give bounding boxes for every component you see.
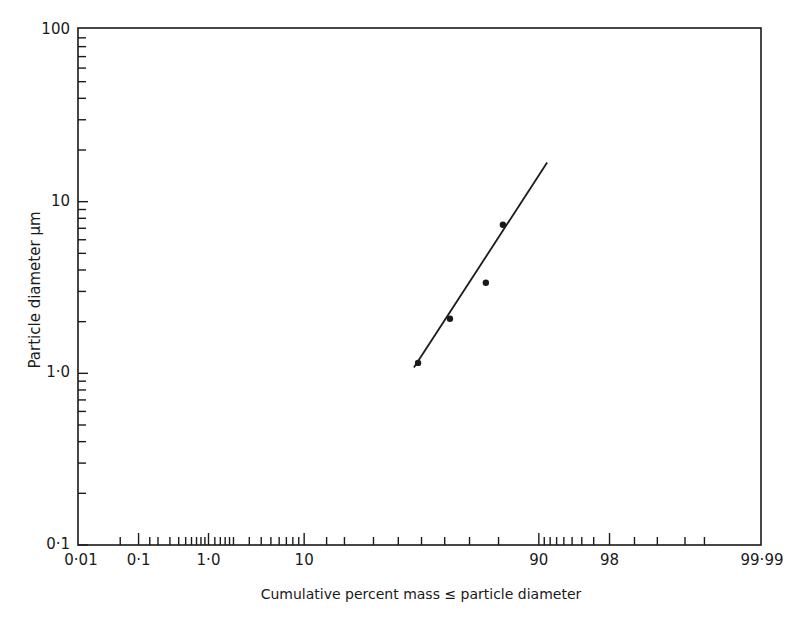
y-axis-ticks bbox=[78, 38, 88, 545]
y-tick-label: 10 bbox=[10, 192, 70, 210]
x-tick-label: 0·1 bbox=[127, 551, 151, 569]
x-tick-label: 90 bbox=[529, 551, 548, 569]
x-tick-label: 1·0 bbox=[197, 551, 221, 569]
x-axis-ticks bbox=[120, 533, 704, 545]
chart-canvas bbox=[0, 0, 812, 625]
y-tick-label: 0·1 bbox=[10, 535, 70, 553]
fitted-line bbox=[414, 163, 547, 368]
x-tick-label: 99·99 bbox=[741, 551, 784, 569]
plot-frame bbox=[78, 28, 761, 545]
x-tick-label: 98 bbox=[600, 551, 619, 569]
data-point bbox=[483, 280, 489, 286]
x-tick-label: 0·01 bbox=[64, 551, 97, 569]
data-series bbox=[414, 163, 547, 368]
x-tick-label: 10 bbox=[295, 551, 314, 569]
x-axis-title: Cumulative percent mass ≤ particle diame… bbox=[261, 586, 582, 602]
y-tick-label: 100 bbox=[10, 20, 70, 38]
y-axis-title: Particle diameter µm bbox=[26, 211, 44, 368]
